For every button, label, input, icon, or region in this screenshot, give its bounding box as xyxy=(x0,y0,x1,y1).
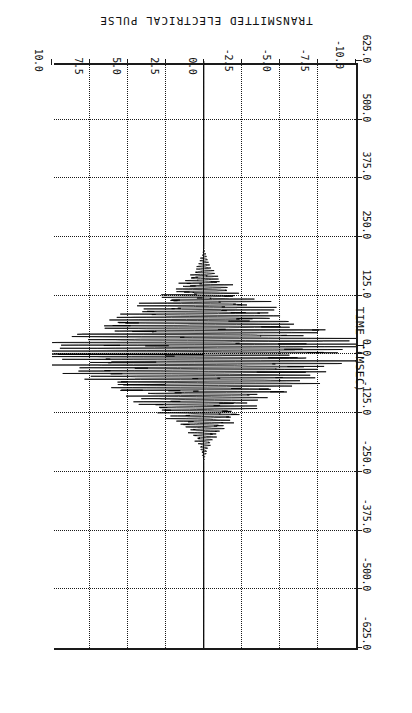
waveform-trace xyxy=(52,61,356,648)
tick-label-amplitude: -2.5 xyxy=(223,49,233,72)
tick-label-time: 375.0 xyxy=(361,134,371,180)
tick-mark-amplitude xyxy=(165,59,166,65)
tick-mark-amplitude xyxy=(317,59,318,65)
tick-label-amplitude: -10.0 xyxy=(334,40,344,69)
tick-label-amplitude: 7.5 xyxy=(73,57,83,74)
tick-label-amplitude: 2.5 xyxy=(149,57,159,74)
tick-label-time: 500.0 xyxy=(361,76,371,122)
tick-label-amplitude: -7.5 xyxy=(299,49,309,72)
tick-label-time: 250.0 xyxy=(361,193,371,239)
tick-label-amplitude: -5.0 xyxy=(261,49,271,72)
tick-mark-amplitude xyxy=(203,59,204,65)
tick-label-amplitude: 0.0 xyxy=(187,57,197,74)
chart-title: TRANSMITTED ELECTRICAL PULSE xyxy=(0,14,412,27)
rotated-figure-canvas: -625.0-500.0-375.0-250.0-125.00.0125.025… xyxy=(0,0,412,713)
tick-label-time: 125.0 xyxy=(361,252,371,298)
tick-mark-amplitude xyxy=(355,59,356,65)
tick-mark-amplitude xyxy=(279,59,280,65)
chart-figure: -625.0-500.0-375.0-250.0-125.00.0125.025… xyxy=(0,0,412,713)
tick-mark-amplitude xyxy=(89,59,90,65)
tick-label-amplitude: 5.0 xyxy=(111,57,121,74)
tick-mark-amplitude xyxy=(241,59,242,65)
tick-label-amplitude: 10.0 xyxy=(33,49,43,72)
time-axis-label: TIME T(MSEC) xyxy=(353,307,366,392)
tick-mark-amplitude xyxy=(127,59,128,65)
tick-label-time: -375.0 xyxy=(361,487,371,533)
tick-label-time: -500.0 xyxy=(361,545,371,591)
tick-label-time: -250.0 xyxy=(361,428,371,474)
tick-label-time: -625.0 xyxy=(361,604,371,650)
tick-mark-amplitude xyxy=(51,59,52,65)
plot-area xyxy=(54,63,358,650)
